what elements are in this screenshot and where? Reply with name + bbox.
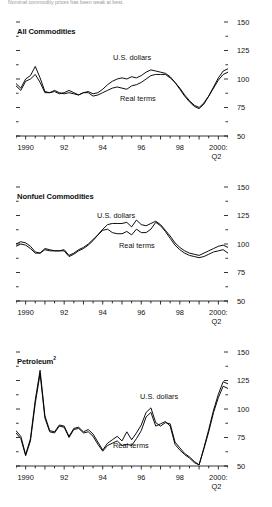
y-axis-label: 125 [237, 211, 249, 220]
y-axis-label: 100 [237, 75, 249, 84]
commodity-price-index-figure: Nominal commodity prices has been weak a… [0, 0, 272, 507]
y-axis-label: 75 [237, 433, 245, 442]
x-axis-label: 1990 [8, 143, 44, 152]
x-axis-label-line2: Q2 [198, 152, 234, 161]
series-line-real [16, 222, 228, 257]
y-axis-label: 125 [237, 376, 249, 385]
x-axis-label: 2000: [200, 308, 236, 317]
series-line-real [16, 374, 228, 465]
chart-svg-petroleum [16, 344, 228, 474]
series-label-real-petroleum: Real terms [113, 441, 149, 450]
x-axis-label: 96 [123, 473, 159, 482]
x-axis-label: 1990 [8, 473, 44, 482]
y-axis-label: 150 [237, 18, 249, 27]
x-axis-label: 2000: [200, 473, 236, 482]
x-axis-label-line2: Q2 [198, 482, 234, 491]
panel-petroleum: Petroleum2 1501251007550 199092949698200… [0, 344, 272, 507]
y-axis-label: 150 [237, 348, 249, 357]
x-axis-label: 2000: [200, 143, 236, 152]
series-label-usd-petroleum: U.S. dollars [140, 392, 178, 401]
y-axis-label: 150 [237, 183, 249, 192]
y-axis-label: 100 [237, 240, 249, 249]
y-axis-label: 125 [237, 46, 249, 55]
x-axis-label: 96 [123, 143, 159, 152]
x-axis-label: 92 [46, 143, 82, 152]
y-axis-label: 50 [237, 462, 245, 471]
series-label-usd-nonfuel-commodities: U.S. dollars [97, 211, 135, 220]
panel-nonfuel-commodities: Nonfuel Commodities 1501251007550 199092… [0, 179, 272, 339]
x-axis-label: 96 [123, 308, 159, 317]
series-label-real-nonfuel-commodities: Real terms [119, 241, 155, 250]
y-axis-label: 100 [237, 405, 249, 414]
series-label-usd-all-commodities: U.S. dollars [113, 53, 151, 62]
x-axis-label: 92 [46, 308, 82, 317]
series-label-real-all-commodities: Real terms [120, 94, 156, 103]
y-axis-label: 50 [237, 132, 245, 141]
y-axis-label: 75 [237, 103, 245, 112]
x-axis-label-line2: Q2 [198, 317, 234, 326]
panel-all-commodities: All Commodities 1501251007550 1990929496… [0, 14, 272, 174]
plot-area-all-commodities [16, 14, 228, 144]
y-axis-label: 50 [237, 297, 245, 306]
x-axis-label: 94 [85, 143, 121, 152]
plot-area-petroleum [16, 344, 228, 474]
x-axis-label: 92 [46, 473, 82, 482]
series-line-usd [16, 370, 228, 465]
x-axis-label: 98 [162, 473, 198, 482]
x-axis-label: 94 [85, 473, 121, 482]
x-axis-label: 94 [85, 308, 121, 317]
y-axis-label: 75 [237, 268, 245, 277]
x-axis-label: 98 [162, 143, 198, 152]
figure-top-note: Nominal commodity prices has been weak a… [8, 0, 268, 5]
x-axis-label: 1990 [8, 308, 44, 317]
x-axis-label: 98 [162, 308, 198, 317]
chart-svg-all-commodities [16, 14, 228, 144]
